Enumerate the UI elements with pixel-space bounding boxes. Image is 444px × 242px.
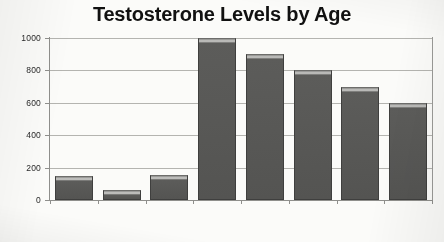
x-axis-tick (98, 200, 99, 204)
bar-child (103, 190, 141, 200)
y-axis-tick (45, 103, 50, 104)
bar-40 (246, 54, 284, 200)
y-axis-tick-label: 800 (26, 65, 41, 75)
y-axis-tick-label: 400 (26, 130, 41, 140)
bar-60 (341, 87, 379, 200)
x-axis-tick (146, 200, 147, 204)
plot-right-border (432, 37, 433, 200)
bar-adolescent (150, 175, 188, 200)
y-axis-tick (45, 135, 50, 136)
y-axis-tick-label: 0 (36, 195, 41, 205)
chart-title: Testosterone Levels by Age (0, 3, 444, 26)
x-axis-tick (193, 200, 194, 204)
y-axis-line (49, 37, 50, 200)
bar-70 (389, 103, 427, 200)
y-axis-tick (45, 38, 50, 39)
x-axis-tick (241, 200, 242, 204)
y-axis-tick (45, 168, 50, 169)
x-axis-tick (289, 200, 290, 204)
y-axis-tick (45, 70, 50, 71)
gridline (50, 70, 432, 71)
x-axis-tick (432, 200, 433, 204)
plot-area: 02004006008001000 NewbornChildAdolescent… (50, 38, 432, 200)
x-axis-tick (337, 200, 338, 204)
bar-20-30 (198, 38, 236, 200)
bar-newborn (55, 176, 93, 200)
gridline (50, 38, 432, 39)
y-axis-tick-label: 1000 (21, 33, 41, 43)
y-axis-tick-label: 600 (26, 98, 41, 108)
x-axis-tick (384, 200, 385, 204)
x-axis-tick (50, 200, 51, 204)
y-axis-tick-label: 200 (26, 163, 41, 173)
bar-50 (294, 70, 332, 200)
chart-figure: Testosterone Levels by Age 0200400600800… (0, 0, 444, 242)
